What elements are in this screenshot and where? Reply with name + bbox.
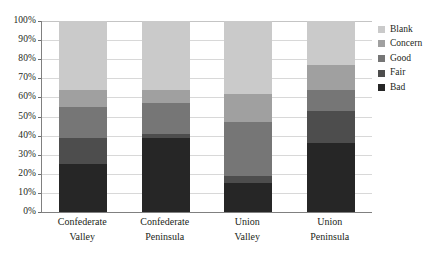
bar-segment[interactable] (224, 21, 272, 94)
bar-segment[interactable] (224, 176, 272, 184)
bar-segment[interactable] (59, 164, 107, 212)
x-axis-category-label: ConfederatePeninsula (124, 215, 207, 244)
legend-swatch-icon (378, 55, 385, 62)
y-axis-tick-label: 100% (0, 16, 36, 26)
legend-item[interactable]: Good (378, 51, 444, 66)
y-axis-tick-label: 0% (0, 207, 36, 217)
stacked-bar-chart: 0%10%20%30%40%50%60%70%80%90%100% Confed… (0, 0, 444, 260)
bars-layer (42, 21, 372, 212)
legend-item[interactable]: Concern (378, 37, 444, 52)
x-axis-category-line: Union (289, 215, 372, 230)
legend-swatch-icon (378, 40, 385, 47)
x-axis-category-line: Valley (206, 230, 289, 245)
y-axis-tick-label: 20% (0, 169, 36, 179)
bar-segment[interactable] (307, 111, 355, 143)
x-axis-category-line: Union (206, 215, 289, 230)
bar-segment[interactable] (142, 103, 190, 134)
bar-segment[interactable] (142, 90, 190, 103)
chart-legend: BlankConcernGoodFairBad (378, 22, 444, 95)
x-axis-category-line: Valley (41, 230, 124, 245)
bar-segment[interactable] (59, 90, 107, 107)
x-axis-category-line: Peninsula (124, 230, 207, 245)
bar-segment[interactable] (224, 94, 272, 123)
y-axis-tick-label: 60% (0, 93, 36, 103)
legend-swatch-icon (378, 70, 385, 77)
bar-segment[interactable] (224, 122, 272, 175)
legend-label: Good (390, 54, 411, 64)
y-axis: 0%10%20%30%40%50%60%70%80%90%100% (0, 21, 36, 212)
legend-label: Fair (390, 68, 405, 78)
bar-segment[interactable] (224, 183, 272, 212)
y-axis-tick-label: 10% (0, 188, 36, 198)
legend-label: Bad (390, 83, 405, 93)
x-axis-category-label: UnionPeninsula (289, 215, 372, 244)
x-axis-category-label: ConfederateValley (41, 215, 124, 244)
y-axis-tick-label: 30% (0, 150, 36, 160)
y-axis-tick-label: 40% (0, 131, 36, 141)
bar-group[interactable] (59, 21, 107, 212)
y-axis-tick-label: 80% (0, 54, 36, 64)
legend-item[interactable]: Bad (378, 80, 444, 95)
plot-area (41, 21, 372, 213)
bar-group[interactable] (142, 21, 190, 212)
x-axis: ConfederateValleyConfederatePeninsulaUni… (41, 215, 371, 259)
bar-segment[interactable] (59, 138, 107, 165)
legend-swatch-icon (378, 84, 385, 91)
bar-segment[interactable] (307, 21, 355, 65)
legend-item[interactable]: Fair (378, 66, 444, 81)
legend-label: Concern (390, 39, 422, 49)
y-axis-tick-label: 50% (0, 112, 36, 122)
bar-segment[interactable] (142, 138, 190, 212)
x-axis-category-line: Peninsula (289, 230, 372, 245)
bar-segment[interactable] (59, 107, 107, 138)
x-axis-category-label: UnionValley (206, 215, 289, 244)
bar-segment[interactable] (59, 21, 107, 90)
legend-swatch-icon (378, 26, 385, 33)
bar-segment[interactable] (307, 65, 355, 90)
x-axis-category-line: Confederate (41, 215, 124, 230)
bar-group[interactable] (307, 21, 355, 212)
y-axis-tick-label: 70% (0, 74, 36, 84)
bar-group[interactable] (224, 21, 272, 212)
y-axis-tick-label: 90% (0, 35, 36, 45)
bar-segment[interactable] (307, 143, 355, 212)
legend-label: Blank (390, 25, 413, 35)
bar-segment[interactable] (142, 21, 190, 90)
x-axis-category-line: Confederate (124, 215, 207, 230)
legend-item[interactable]: Blank (378, 22, 444, 37)
bar-segment[interactable] (142, 134, 190, 138)
bar-segment[interactable] (307, 90, 355, 111)
